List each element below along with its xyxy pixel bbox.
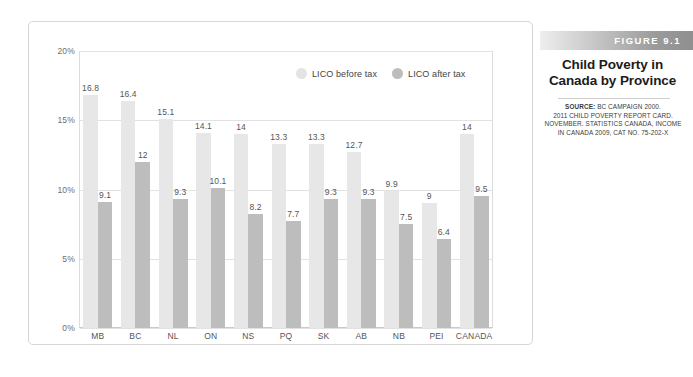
legend-label-after-tax: LICO after tax — [408, 69, 465, 79]
x-tick-label: ON — [204, 331, 217, 341]
x-tick-label: BC — [129, 331, 141, 341]
bar-group: 13.37.7 — [272, 51, 301, 328]
bar: 15.1 — [159, 119, 174, 328]
x-tick-label: NS — [242, 331, 254, 341]
bar-value-label: 13.3 — [308, 132, 325, 142]
bar-value-label: 10.1 — [209, 176, 226, 186]
bar-group: 14.110.1 — [196, 51, 225, 328]
y-tick-label: 20% — [31, 46, 75, 56]
bar: 6.4 — [437, 239, 452, 328]
bar-group: 148.2 — [234, 51, 263, 328]
bar-value-label: 15.1 — [157, 107, 174, 117]
bar-value-label: 9.3 — [362, 187, 374, 197]
bar: 9.3 — [361, 199, 376, 328]
figure-source: SOURCE: BC CAMPAIGN 2000. 2011 CHILD POV… — [540, 103, 686, 137]
figure-title-line2: Canada by Province — [549, 73, 676, 88]
bar: 9.3 — [173, 199, 188, 328]
bar: 9.5 — [474, 196, 489, 328]
x-tick-label: NL — [167, 331, 178, 341]
source-label: SOURCE: — [565, 103, 595, 110]
y-tick-label: 0% — [31, 323, 75, 333]
bar-group: 16.412 — [121, 51, 150, 328]
figure-number-label: FIGURE 9.1 — [614, 35, 693, 46]
bar-value-label: 9.5 — [475, 184, 487, 194]
legend-label-before-tax: LICO before tax — [312, 69, 377, 79]
bar: 14 — [460, 134, 475, 328]
bar-value-label: 14.1 — [195, 121, 212, 131]
source-line-1: BC CAMPAIGN 2000. — [595, 103, 661, 110]
bar-group: 149.5 — [460, 51, 489, 328]
figure-caption-panel: FIGURE 9.1 Child Poverty in Canada by Pr… — [540, 21, 693, 345]
bar-value-label: 9 — [427, 191, 432, 201]
y-axis-labels: 0%5%10%15%20% — [28, 51, 75, 328]
bar: 12 — [135, 162, 150, 328]
legend-swatch-before-tax-icon — [296, 68, 307, 79]
bar: 13.3 — [309, 144, 324, 328]
bar-value-label: 16.8 — [82, 83, 99, 93]
y-tick-label: 15% — [31, 115, 75, 125]
bar-value-label: 14 — [236, 122, 246, 132]
bar: 16.4 — [121, 101, 136, 328]
legend-swatch-after-tax-icon — [392, 68, 403, 79]
bar-value-label: 7.5 — [400, 212, 412, 222]
x-axis-labels: MBBCNLONNSPQSKABNBPEICANADA — [79, 331, 493, 347]
bars-layer: 16.89.116.41215.19.314.110.1148.213.37.7… — [79, 51, 493, 328]
bar-group: 15.19.3 — [159, 51, 188, 328]
legend-item-after-tax: LICO after tax — [392, 68, 465, 79]
x-tick-label: SK — [318, 331, 330, 341]
bar-value-label: 9.1 — [99, 190, 111, 200]
source-line-4: IN CANADA 2009, CAT NO. 75-202-X — [558, 129, 669, 136]
bar: 16.8 — [83, 95, 98, 328]
bar-group: 12.79.3 — [347, 51, 376, 328]
source-line-3: NOVEMBER. STATISTICS CANADA, INCOME — [544, 120, 681, 127]
bar-value-label: 9.3 — [174, 187, 186, 197]
x-tick-label: PEI — [429, 331, 443, 341]
bar-value-label: 12 — [138, 150, 148, 160]
bar: 9.3 — [324, 199, 339, 328]
figure-title: Child Poverty in Canada by Province — [540, 57, 685, 89]
bar: 12.7 — [347, 152, 362, 328]
bar-value-label: 6.4 — [438, 227, 450, 237]
bar: 13.3 — [272, 144, 287, 328]
caption-divider — [558, 98, 670, 99]
bar: 7.7 — [286, 221, 301, 328]
legend-item-before-tax: LICO before tax — [296, 68, 377, 79]
bar-group: 16.89.1 — [83, 51, 112, 328]
x-tick-label: MB — [91, 331, 104, 341]
figure-title-line1: Child Poverty in — [562, 57, 663, 72]
source-line-2: 2011 CHILD POVERTY REPORT CARD. — [553, 112, 673, 119]
x-tick-label: AB — [355, 331, 367, 341]
bar: 10.1 — [211, 188, 226, 328]
bar-value-label: 9.9 — [386, 179, 398, 189]
bar-chart: 0%5%10%15%20% 16.89.116.41215.19.314.110… — [28, 21, 533, 345]
x-tick-label: NB — [393, 331, 405, 341]
bar-value-label: 12.7 — [346, 140, 363, 150]
bar-group: 9.97.5 — [384, 51, 413, 328]
bar: 7.5 — [399, 224, 414, 328]
bar: 14.1 — [196, 133, 211, 328]
bar: 8.2 — [248, 214, 263, 328]
bar-value-label: 7.7 — [287, 209, 299, 219]
bar-value-label: 8.2 — [250, 202, 262, 212]
bar-group: 13.39.3 — [309, 51, 338, 328]
bar: 9.1 — [98, 202, 113, 328]
bar-value-label: 14 — [462, 122, 472, 132]
figure-number-band: FIGURE 9.1 — [540, 31, 693, 50]
bar-value-label: 9.3 — [325, 187, 337, 197]
bar: 9.9 — [384, 191, 399, 328]
bar-value-label: 16.4 — [120, 89, 137, 99]
bar: 14 — [234, 134, 249, 328]
y-tick-label: 10% — [31, 185, 75, 195]
x-tick-label: PQ — [280, 331, 293, 341]
chart-legend: LICO before tax LICO after tax — [296, 68, 465, 79]
bar-group: 96.4 — [422, 51, 451, 328]
gridline — [80, 328, 492, 329]
x-tick-label: CANADA — [456, 331, 493, 341]
bar-value-label: 13.3 — [270, 132, 287, 142]
y-tick-label: 5% — [31, 254, 75, 264]
bar: 9 — [422, 203, 437, 328]
figure-container: 0%5%10%15%20% 16.89.116.41215.19.314.110… — [0, 0, 693, 377]
